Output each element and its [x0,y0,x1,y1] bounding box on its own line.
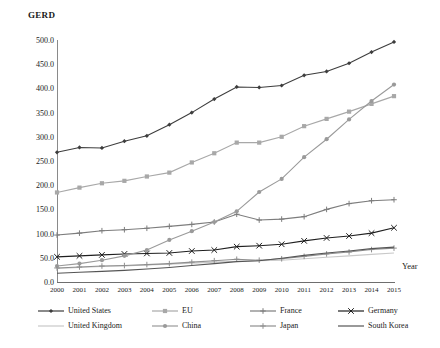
data-point [369,198,375,204]
data-point [122,227,128,233]
legend-item-south-korea[interactable]: South Korea [336,321,408,331]
data-point [347,110,351,114]
data-point [167,171,171,175]
data-point [235,141,239,145]
legend-item-united-states[interactable]: United States [36,306,111,316]
data-point [100,146,104,150]
data-point [280,83,284,87]
legend-marker [163,324,167,328]
plot-area [0,0,440,348]
series-china [55,82,396,268]
legend-item-france[interactable]: France [248,306,302,316]
legend-marker [260,308,266,314]
data-point [144,262,150,268]
data-point [100,181,104,185]
data-point [324,207,330,213]
data-point [99,228,105,234]
legend-item-germany[interactable]: Germany [336,306,398,316]
legend-swatch-circle-icon [150,321,180,331]
data-point [77,186,81,190]
data-point [235,209,239,213]
legend-swatch-none-icon [36,321,66,331]
chart-legend: United StatesEUFranceGermanyUnited Kingd… [36,306,416,340]
data-point [145,134,149,138]
data-point [145,174,149,178]
data-point [167,224,173,230]
legend-label: Japan [280,321,298,331]
data-point [302,155,306,159]
data-point [324,251,330,257]
data-point [325,117,329,121]
series-united-states [55,40,396,155]
legend-label: France [280,306,302,316]
series-line [57,200,394,235]
data-point [325,137,329,141]
legend-label: South Korea [368,321,408,331]
data-point [190,160,194,164]
legend-item-japan[interactable]: Japan [248,321,298,331]
data-point [391,245,397,251]
data-point [54,232,60,238]
legend-item-eu[interactable]: EU [150,306,193,316]
data-point [55,190,59,194]
legend-swatch-diamond-icon [36,306,66,316]
data-point [391,197,397,203]
legend-swatch-plus-icon [248,306,278,316]
data-point [257,190,261,194]
series-line [57,85,394,267]
legend-item-china[interactable]: China [150,321,201,331]
legend-swatch-square-icon [150,306,180,316]
data-point [167,123,171,127]
data-point [167,238,171,242]
legend-swatch-none-icon [336,321,366,331]
data-point [302,124,306,128]
data-point [189,222,195,228]
data-point [167,261,173,267]
data-point [212,151,216,155]
data-point [257,141,261,145]
legend-marker [260,323,266,329]
data-point [122,263,128,269]
data-point [301,214,307,220]
legend-marker [163,309,167,313]
legend-label: United Kingdom [68,321,122,331]
chart-figure: GERD Year 0.050.0100.0150.0200.0250.0300… [0,0,440,348]
series-france [54,197,397,238]
legend-item-united-kingdom[interactable]: United Kingdom [36,321,122,331]
data-point [256,217,262,223]
data-point [144,225,150,231]
data-point [212,220,216,224]
data-point [77,145,81,149]
legend-label: United States [68,306,111,316]
legend-label: China [182,321,201,331]
data-point [392,94,396,98]
legend-label: EU [182,306,193,316]
data-point [280,177,284,181]
data-point [55,150,59,154]
data-point [346,249,352,255]
data-point [302,73,306,77]
data-point [369,99,373,103]
data-point [189,259,195,265]
data-point [392,40,396,44]
series-line [57,96,394,192]
data-point [145,248,149,252]
data-point [346,201,352,207]
data-point [122,179,126,183]
series-line [57,42,394,152]
data-point [235,85,239,89]
data-point [190,229,194,233]
data-point [280,135,284,139]
data-point [99,263,105,269]
data-point [347,61,351,65]
data-point [77,264,83,270]
series-eu [55,94,396,195]
data-point [122,254,126,258]
data-point [279,216,285,222]
legend-label: Germany [368,306,398,316]
data-point [347,117,351,121]
data-point [122,139,126,143]
data-point [392,82,396,86]
legend-swatch-x-icon [336,306,366,316]
data-point [325,69,329,73]
